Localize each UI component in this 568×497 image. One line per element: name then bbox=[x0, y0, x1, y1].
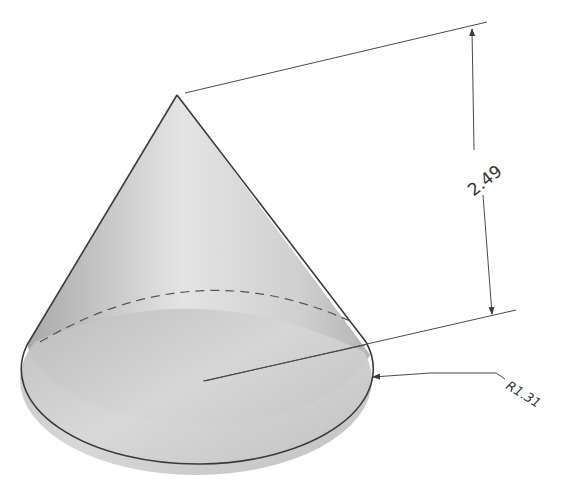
cone-drawing: 2.49 R1.31 bbox=[0, 0, 568, 497]
height-extension-line-top bbox=[185, 22, 487, 93]
height-dimension-line-upper bbox=[472, 29, 474, 150]
height-dimension-line-lower bbox=[483, 195, 492, 314]
radius-leader-tail bbox=[496, 373, 505, 379]
radius-leader bbox=[373, 373, 496, 377]
height-dimension-label: 2.49 bbox=[464, 161, 506, 200]
radius-dimension-label: R1.31 bbox=[503, 378, 543, 411]
